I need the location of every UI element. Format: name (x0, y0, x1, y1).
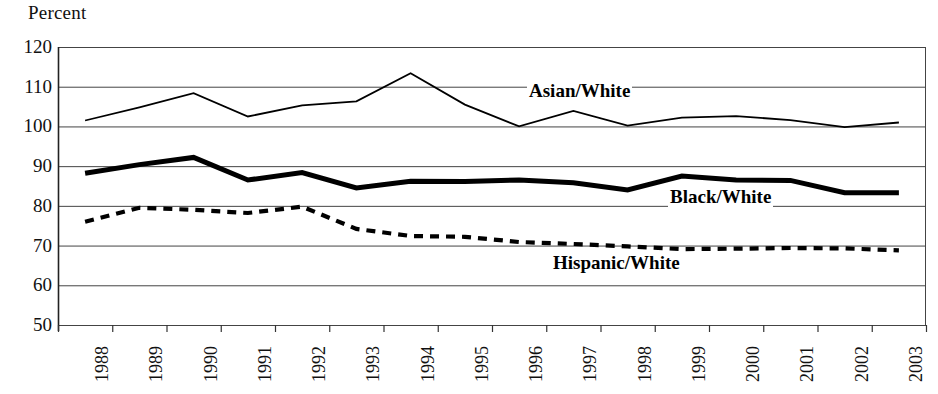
series-label-hispanic-white: Hispanic/White (551, 252, 682, 274)
series-line-asian-white (85, 73, 899, 127)
x-tick-label-1988: 1988 (92, 346, 113, 382)
plot-area (0, 0, 938, 394)
x-tick-label-2003: 2003 (906, 346, 927, 382)
ratio-line-chart: Percent 5060708090100110120 Asian/White … (0, 0, 938, 394)
x-tick-label-1998: 1998 (635, 346, 656, 382)
series-line-hispanic-white (85, 207, 899, 251)
x-tick-label-1993: 1993 (363, 346, 384, 382)
x-tick-label-1991: 1991 (255, 346, 276, 382)
x-tick-label-2002: 2002 (852, 346, 873, 382)
series-label-black-white: Black/White (668, 186, 773, 208)
x-tick-label-1989: 1989 (146, 346, 167, 382)
x-tick-label-1995: 1995 (472, 346, 493, 382)
x-tick-label-1992: 1992 (309, 346, 330, 382)
series-label-asian-white: Asian/White (527, 80, 632, 102)
series-line-black-white (85, 157, 899, 192)
x-tick-label-1994: 1994 (418, 346, 439, 382)
x-tick-label-1990: 1990 (201, 346, 222, 382)
x-tick-label-2000: 2000 (743, 346, 764, 382)
x-tick-label-1999: 1999 (689, 346, 710, 382)
x-tick-label-2001: 2001 (797, 346, 818, 382)
x-tick-label-1996: 1996 (526, 346, 547, 382)
x-tick-label-1997: 1997 (580, 346, 601, 382)
